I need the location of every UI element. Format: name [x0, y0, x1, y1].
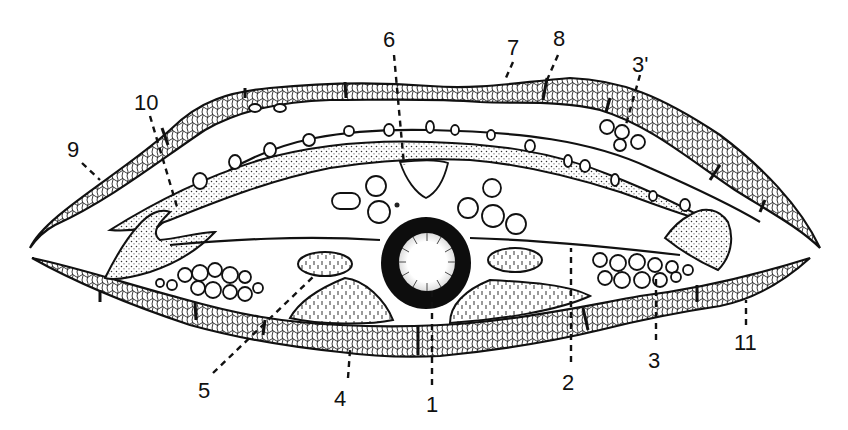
- label-9: 9: [67, 137, 79, 162]
- label-10: 10: [134, 90, 158, 115]
- gut: [381, 217, 471, 309]
- label-3: 3: [648, 348, 660, 373]
- left-nerve-body: [298, 252, 352, 276]
- label-4: 4: [334, 386, 346, 411]
- label-6: 6: [383, 27, 395, 52]
- dorsal-vessel: [400, 161, 448, 198]
- label-2: 2: [562, 370, 574, 395]
- right-nerve-body: [488, 248, 542, 272]
- label-8: 8: [553, 26, 565, 51]
- label-7: 7: [507, 35, 519, 60]
- label-3-prime: 3': [632, 52, 648, 77]
- cross-section-diagram: 1 2 3 3' 4 5 6 7 8 9 10 11: [0, 0, 848, 430]
- label-1: 1: [426, 392, 438, 417]
- ventral-muscle-left: [290, 278, 393, 324]
- label-5: 5: [198, 378, 210, 403]
- egg-cluster-right: [593, 253, 693, 288]
- label-11: 11: [734, 330, 757, 355]
